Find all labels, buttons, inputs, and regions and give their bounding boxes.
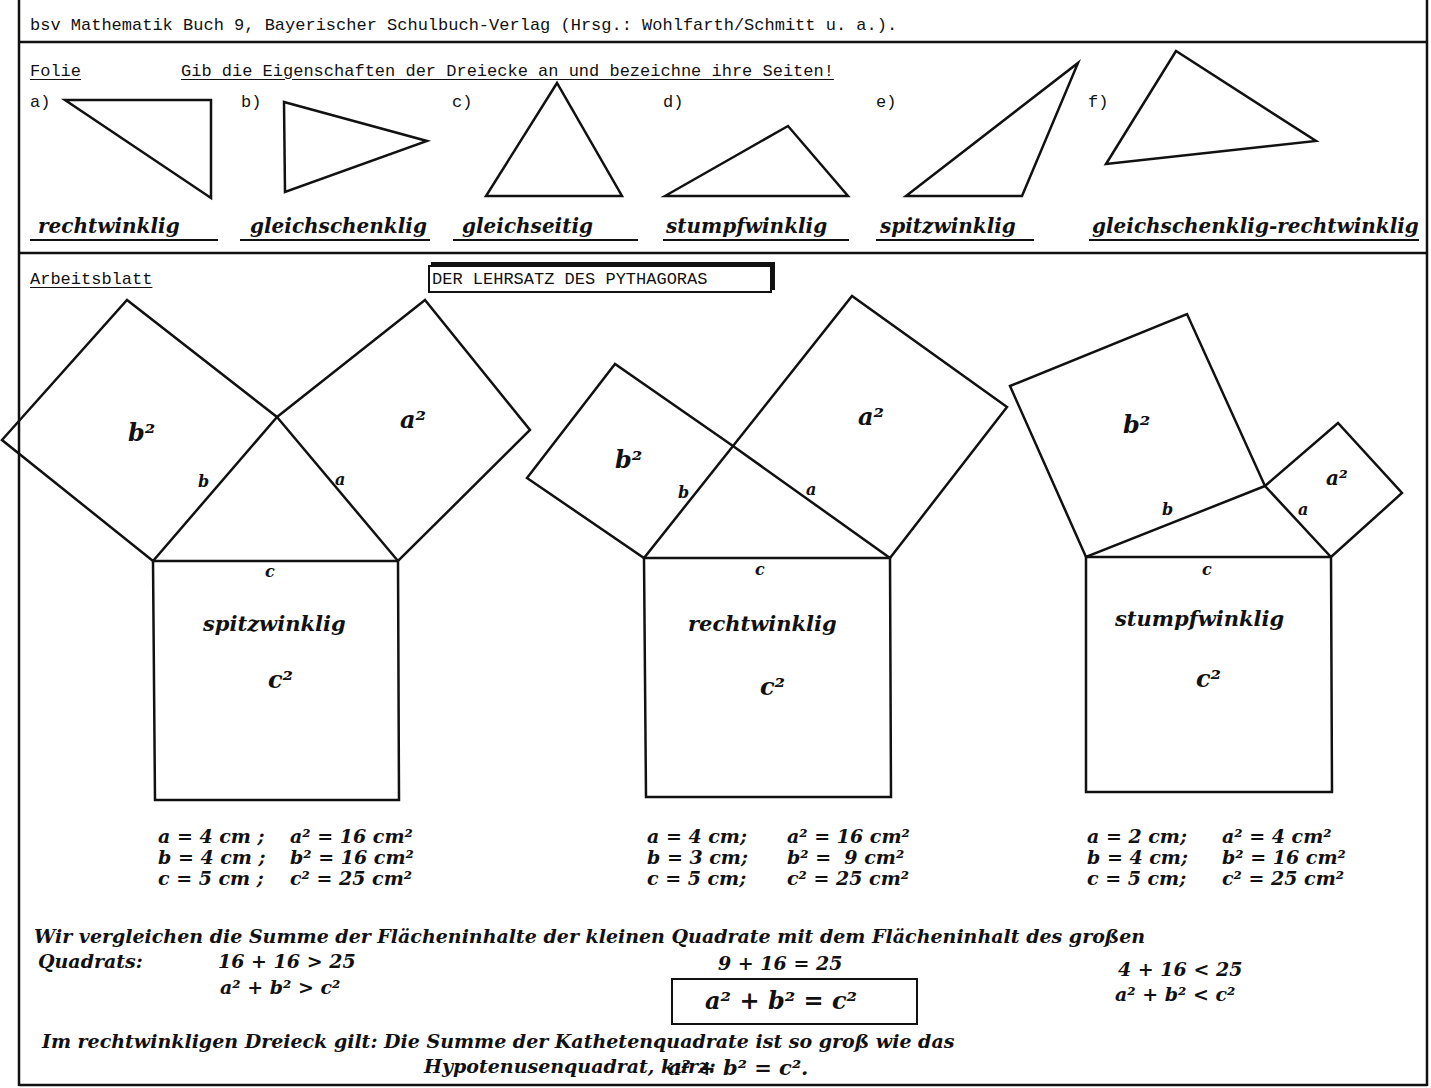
- answer-line-a: [30, 239, 218, 241]
- fig2-side-c: c: [755, 560, 765, 579]
- triangle-c: [486, 83, 622, 196]
- fig3-type: stumpfwinklig: [1115, 606, 1284, 631]
- triangle-c-property: gleichseitig: [462, 214, 593, 238]
- answer-line-b: [240, 239, 430, 241]
- fig3-c-square-label: c²: [1196, 664, 1221, 693]
- fig1-c-square-label: c²: [268, 665, 293, 694]
- fig2-b-square-label: b²: [615, 445, 642, 474]
- triangle-b: [284, 102, 427, 192]
- fig3-relation: a² + b² < c²: [1115, 983, 1235, 1005]
- fig1-comparison: 16 + 16 > 25: [218, 950, 356, 972]
- fig1-side-b: b: [198, 472, 209, 491]
- fig2-relation: a² + b² = c²: [705, 986, 857, 1015]
- fig2-side-values: a = 4 cm;b = 3 cm;c = 5 cm;: [647, 826, 748, 889]
- fig2-type: rechtwinklig: [688, 611, 837, 636]
- answer-line-c: [453, 239, 638, 241]
- fig3-a-square-label: a²: [1326, 466, 1348, 490]
- triangle-a-property: rechtwinklig: [38, 214, 180, 238]
- fig3-side-values: a = 2 cm;b = 4 cm;c = 5 cm;: [1087, 826, 1188, 889]
- fig3-b-square-label: b²: [1123, 410, 1150, 439]
- arbeitsblatt-label: Arbeitsblatt: [30, 270, 152, 289]
- fig1-a-square-label: a²: [400, 405, 426, 434]
- fig1-type: spitzwinklig: [203, 611, 346, 636]
- triangle-b-property: gleichschenklig: [250, 214, 427, 238]
- triangle-f-property: gleichschenklig-rechtwinklig: [1092, 214, 1419, 238]
- fig3-square-values: a² = 4 cm²b² = 16 cm²c² = 25 cm²: [1222, 826, 1346, 889]
- fig3-comparison: 4 + 16 < 25: [1118, 958, 1242, 980]
- answer-line-e: [876, 239, 1034, 241]
- fig2-side-a: a: [806, 480, 816, 499]
- folie-task: Gib die Eigenschaften der Dreiecke an un…: [181, 62, 834, 81]
- source-citation: bsv Mathematik Buch 9, Bayerischer Schul…: [30, 16, 897, 35]
- triangle-d-letter: d): [663, 93, 683, 112]
- triangle-f: [1106, 51, 1316, 164]
- compare-sentence: Wir vergleichen die Summe der Flächeninh…: [34, 925, 1145, 947]
- fig2-comparison: 9 + 16 = 25: [718, 952, 842, 974]
- fig1-side-c: c: [265, 562, 275, 581]
- triangle-e-letter: e): [876, 93, 896, 112]
- triangle-e-property: spitzwinklig: [880, 214, 1016, 238]
- fig2-a-square-label: a²: [858, 402, 884, 431]
- triangle-d-property: stumpfwinklig: [666, 214, 827, 238]
- fig3-side-a: a: [1298, 500, 1308, 519]
- triangle-b-letter: b): [241, 93, 261, 112]
- fig1-b-square-label: b²: [128, 418, 155, 447]
- fig2-c-square-label: c²: [760, 672, 785, 701]
- folie-label: Folie: [30, 62, 81, 81]
- triangle-a-letter: a): [30, 93, 50, 112]
- worksheet-title: DER LEHRSATZ DES PYTHAGORAS: [432, 270, 707, 289]
- triangle-d: [665, 126, 848, 196]
- answer-line-d: [663, 239, 849, 241]
- fig3-side-b: b: [1162, 500, 1173, 519]
- triangle-a: [65, 100, 211, 198]
- compare-sentence-cont: Quadrats:: [38, 950, 143, 972]
- fig1-side-a: a: [335, 470, 345, 489]
- fig1-relation: a² + b² > c²: [220, 976, 340, 998]
- fig1-square-values: a² = 16 cm²b² = 16 cm²c² = 25 cm²: [290, 826, 414, 889]
- fig3-side-c: c: [1202, 560, 1212, 579]
- triangle-c-letter: c): [452, 93, 472, 112]
- fig1-side-values: a = 4 cm ;b = 4 cm ;c = 5 cm ;: [158, 826, 266, 889]
- figure-stumpfwinklig: [1010, 314, 1402, 792]
- triangle-f-letter: f): [1088, 93, 1108, 112]
- fig2-square-values: a² = 16 cm²b² = 9 cm²c² = 25 cm²: [787, 826, 910, 889]
- figure-spitzwinklig: [2, 300, 530, 800]
- conclusion-line-1: Im rechtwinkligen Dreieck gilt: Die Summ…: [42, 1030, 954, 1052]
- fig2-side-b: b: [678, 483, 689, 502]
- answer-line-f: [1089, 239, 1419, 241]
- conclusion-formula: a² + b² = c².: [668, 1055, 808, 1080]
- triangle-e: [906, 63, 1078, 196]
- figure-rechtwinklig: [527, 296, 1007, 797]
